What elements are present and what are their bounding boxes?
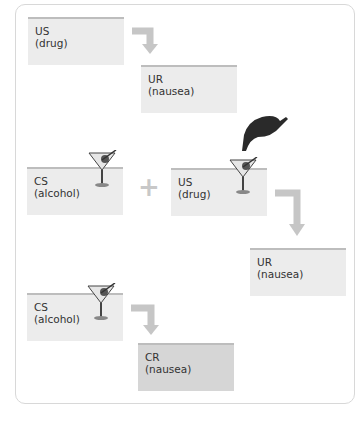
ur-nausea-box-2: UR (nausea) xyxy=(250,248,346,296)
box-label: CR xyxy=(145,351,234,363)
box-sublabel: (nausea) xyxy=(148,85,237,97)
ur-nausea-box-1: UR (nausea) xyxy=(141,65,237,113)
cr-nausea-box-3: CR (nausea) xyxy=(138,343,234,391)
plus-icon: + xyxy=(138,174,160,200)
curved-arrow-icon xyxy=(130,27,168,57)
curved-arrow-icon xyxy=(129,304,167,338)
us-drug-box-1: US (drug) xyxy=(28,17,124,65)
martini-glass-icon xyxy=(229,157,263,197)
martini-glass-icon xyxy=(88,150,122,190)
curved-arrow-icon xyxy=(273,189,313,239)
martini-glass-icon xyxy=(87,283,121,323)
box-label: UR xyxy=(148,73,237,85)
box-label: UR xyxy=(257,256,346,268)
box-sublabel: (nausea) xyxy=(257,268,346,280)
box-label: US xyxy=(35,25,124,37)
hand-dropper-icon xyxy=(236,113,290,157)
box-sublabel: (drug) xyxy=(35,37,124,49)
box-sublabel: (nausea) xyxy=(145,363,234,375)
